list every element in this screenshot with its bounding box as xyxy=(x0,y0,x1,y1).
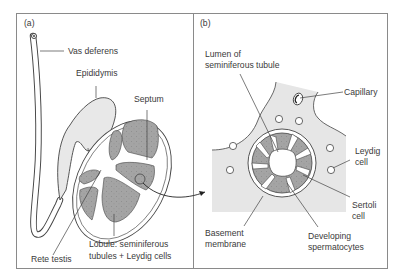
label-epididymis: Epididymis xyxy=(76,68,118,78)
panel-a-label: (a) xyxy=(24,18,35,28)
label-vas-deferens: Vas deferens xyxy=(68,46,118,56)
label-sertoli-line1: Sertoli xyxy=(352,200,376,210)
panel-b-label: (b) xyxy=(200,18,211,28)
label-basement-line1: Basement xyxy=(205,228,244,238)
label-basement-line2: membrane xyxy=(205,239,246,249)
label-capillary: Capillary xyxy=(344,87,378,97)
label-lumen-line1: Lumen of xyxy=(205,49,241,59)
label-rete-testis: Rete testis xyxy=(31,254,72,264)
label-lumen-line2: seminiferous tubule xyxy=(205,60,280,70)
label-leydig-line2: cell xyxy=(355,157,368,167)
label-leydig-line1: Leydig xyxy=(355,146,381,156)
label-lobule-line1: Lobule: seminiferous xyxy=(89,239,168,249)
testis-diagram: (a) (b) xyxy=(0,0,403,280)
label-developing-line2: spermatocytes xyxy=(308,242,364,252)
label-developing-line1: Developing xyxy=(308,231,351,241)
seminiferous-tubule xyxy=(248,129,316,197)
vas-deferens-shape xyxy=(32,34,61,235)
label-lobule-line2: tubules + Leydig cells xyxy=(89,251,171,261)
label-septum: Septum xyxy=(134,94,164,104)
label-sertoli-line2: cell xyxy=(352,211,365,221)
